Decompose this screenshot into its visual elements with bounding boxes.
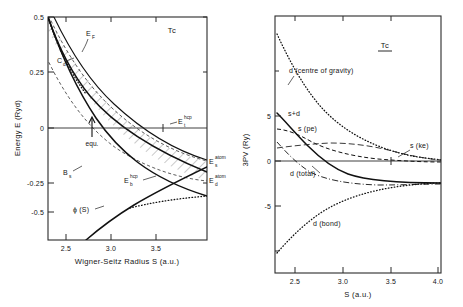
left-x-axis-title: Wigner-Seitz Radius S (a.u.) bbox=[75, 257, 180, 266]
right-xtick-2: 3.5 bbox=[386, 278, 396, 285]
left-panel-title: Tc bbox=[168, 26, 176, 35]
left-xtick-0: 2.5 bbox=[61, 245, 71, 252]
right-plot-panel: 5 0 -5 2.5 3.0 3.5 4.0 S (a.u.) 3PV (Ry) bbox=[232, 0, 463, 307]
left-xtick-1: 3.0 bbox=[106, 245, 116, 252]
label-phi-leader bbox=[95, 206, 104, 209]
svg-text:E: E bbox=[209, 177, 214, 184]
equilibrium-marker bbox=[89, 117, 95, 137]
svg-text:b: b bbox=[130, 182, 133, 187]
equilibrium-label: equ. bbox=[86, 140, 99, 148]
svg-text:hcp: hcp bbox=[130, 174, 138, 179]
label-ed-atom: E d atom bbox=[209, 174, 226, 187]
left-y-axis-title: Energy E (Ryd) bbox=[13, 100, 22, 156]
figure-root: 0.5 0.25 0 -0.25 -0.5 2.5 3.0 3.5 Wigner… bbox=[0, 0, 463, 307]
svg-text:d: d bbox=[63, 62, 66, 67]
label-d-bond: d (bond) bbox=[313, 220, 341, 228]
label-et-hcp: E t hcp bbox=[170, 115, 192, 128]
label-es-atom: E s atom bbox=[209, 155, 226, 168]
svg-text:t: t bbox=[184, 123, 186, 128]
svg-text:s: s bbox=[69, 174, 72, 179]
right-y-axis-title: 3PV (Ry) bbox=[241, 133, 250, 166]
svg-text:d (total): d (total) bbox=[290, 170, 316, 178]
left-ytick-1: 0.25 bbox=[30, 69, 44, 76]
label-bs: B s bbox=[63, 166, 82, 179]
right-xtick-1: 3.0 bbox=[338, 278, 348, 285]
left-plot-svg: 0.5 0.25 0 -0.25 -0.5 2.5 3.0 3.5 Wigner… bbox=[0, 0, 232, 307]
label-s-plus-d: s+d bbox=[288, 110, 300, 117]
svg-text:E: E bbox=[124, 177, 129, 184]
svg-text:E: E bbox=[178, 118, 183, 125]
svg-text:C: C bbox=[57, 57, 62, 64]
svg-text:d (centre of gravity): d (centre of gravity) bbox=[289, 67, 354, 75]
label-s-ke: s (ke) bbox=[398, 142, 429, 157]
svg-text:s: s bbox=[215, 163, 218, 168]
svg-text:d: d bbox=[215, 182, 218, 187]
svg-text:E: E bbox=[86, 30, 91, 37]
svg-text:B: B bbox=[63, 169, 68, 176]
right-panel-title: Tc bbox=[381, 41, 389, 50]
right-xtick-0: 2.5 bbox=[290, 278, 300, 285]
left-ytick-4: -0.5 bbox=[31, 209, 44, 216]
right-plot-svg: 5 0 -5 2.5 3.0 3.5 4.0 S (a.u.) 3PV (Ry) bbox=[232, 0, 463, 307]
left-plot-panel: 0.5 0.25 0 -0.25 -0.5 2.5 3.0 3.5 Wigner… bbox=[0, 0, 232, 307]
curve-d-bond bbox=[277, 183, 441, 253]
left-ytick-2: 0 bbox=[40, 125, 44, 132]
left-shaded-band bbox=[44, 5, 207, 181]
curve-cd bbox=[48, 17, 207, 172]
left-xtick-2: 3.5 bbox=[151, 245, 161, 252]
right-xtick-3: 4.0 bbox=[433, 278, 443, 285]
label-eb-hcp: E b hcp bbox=[124, 174, 156, 187]
svg-text:F: F bbox=[92, 35, 95, 40]
right-ytick-1: 0 bbox=[267, 158, 271, 165]
left-ytick-0: 0.5 bbox=[34, 14, 44, 21]
label-s-pe: s (pe) bbox=[298, 125, 317, 133]
svg-text:atom: atom bbox=[215, 155, 226, 160]
curve-phi-s bbox=[86, 167, 207, 240]
right-ytick-2: -5 bbox=[264, 203, 271, 210]
label-fermi: E F bbox=[82, 30, 95, 52]
svg-text:hcp: hcp bbox=[184, 115, 192, 120]
left-ytick-3: -0.25 bbox=[27, 180, 44, 187]
curve-phi-dotted-tail bbox=[130, 196, 207, 208]
right-x-axis-title: S (a.u.) bbox=[344, 290, 371, 299]
right-y-ticks bbox=[275, 71, 281, 251]
svg-text:E: E bbox=[209, 158, 214, 165]
label-d-total: d (total) bbox=[290, 166, 320, 178]
label-d-centre-of-gravity: d (centre of gravity) bbox=[288, 67, 354, 85]
svg-text:atom: atom bbox=[215, 174, 226, 179]
right-ytick-0: 5 bbox=[267, 113, 271, 120]
svg-text:s (ke): s (ke) bbox=[410, 142, 429, 150]
label-phi-s: ϕ (S) bbox=[73, 206, 89, 214]
